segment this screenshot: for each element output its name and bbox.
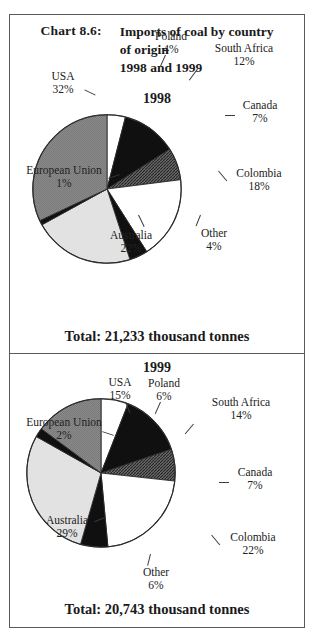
slice-label-other-1999: Other 6% xyxy=(130,566,182,593)
slice-pct-colombia-1999: 22% xyxy=(220,544,286,557)
slice-label-south-africa-1999: South Africa 14% xyxy=(193,396,289,423)
slice-name-colombia-1998: Colombia xyxy=(236,167,281,179)
slice-label-south-africa-1998: South Africa 12% xyxy=(196,42,292,69)
slice-pct-usa-1999: 15% xyxy=(94,389,146,402)
leader-line-southafrica-1999 xyxy=(185,424,194,435)
slice-name-poland-1999: Poland xyxy=(148,377,180,389)
slice-name-australia-1999: Australia xyxy=(46,514,88,526)
slice-label-european-union-1999: European Union 2% xyxy=(8,416,120,443)
leader-line-other-1999 xyxy=(147,554,151,566)
slice-pct-european-union-1999: 2% xyxy=(8,429,120,442)
leader-line-southafrica-1998 xyxy=(189,69,198,81)
slice-name-european-union-1998: European Union xyxy=(26,164,102,176)
slice-pct-south-africa-1999: 14% xyxy=(193,409,289,422)
total-label-1999: Total: 20,743 thousand tonnes xyxy=(10,601,304,618)
year-heading-1999: 1999 xyxy=(10,360,304,376)
slice-name-other-1998: Other xyxy=(201,227,227,239)
slice-label-canada-1998: Canada 7% xyxy=(229,99,291,126)
leader-line-colombia-1999 xyxy=(211,535,220,546)
slice-label-australia-1998: Australia 22% xyxy=(94,229,168,256)
slice-label-colombia-1998: Colombia 18% xyxy=(226,167,292,194)
slice-name-usa-1999: USA xyxy=(108,376,131,388)
chart-frame: Chart 8.6: Imports of coal by country of… xyxy=(9,14,305,628)
slice-label-australia-1999: Australia 29% xyxy=(30,514,104,541)
slice-name-colombia-1999: Colombia xyxy=(230,531,275,543)
slice-label-canada-1999: Canada 7% xyxy=(224,466,286,493)
slice-pct-european-union-1998: 1% xyxy=(8,177,120,190)
slice-name-other-1999: Other xyxy=(143,566,169,578)
slice-pct-colombia-1998: 18% xyxy=(226,180,292,193)
slice-name-european-union-1999: European Union xyxy=(26,416,102,428)
slice-name-poland-1998: Poland xyxy=(155,30,187,42)
pie-slice-colombia xyxy=(101,473,175,547)
slice-pct-south-africa-1998: 12% xyxy=(196,55,292,68)
slice-name-canada-1999: Canada xyxy=(238,466,272,478)
slice-pct-other-1998: 4% xyxy=(188,240,240,253)
leader-line-other-1998 xyxy=(196,215,201,227)
slice-label-other-1998: Other 4% xyxy=(188,227,240,254)
slice-pct-australia-1998: 22% xyxy=(94,242,168,255)
slice-label-poland-1998: Poland 4% xyxy=(141,30,201,57)
slice-pct-canada-1998: 7% xyxy=(229,112,291,125)
slice-name-south-africa-1999: South Africa xyxy=(212,396,270,408)
slice-pct-australia-1999: 29% xyxy=(30,527,104,540)
slice-label-colombia-1999: Colombia 22% xyxy=(220,531,286,558)
total-label-1998: Total: 21,233 thousand tonnes xyxy=(10,328,304,345)
slice-pct-usa-1998: 32% xyxy=(37,83,89,96)
slice-label-usa-1999: USA 15% xyxy=(94,376,146,403)
slice-name-australia-1998: Australia xyxy=(110,229,152,241)
slice-name-canada-1998: Canada xyxy=(243,99,277,111)
pie-panel-1999: 1999 xyxy=(10,354,304,627)
slice-pct-poland-1998: 4% xyxy=(141,43,201,56)
pie-panel-1998: 1998 xyxy=(10,15,304,353)
slice-label-european-union-1998: European Union 1% xyxy=(8,164,120,191)
slice-pct-canada-1999: 7% xyxy=(224,479,286,492)
slice-label-usa-1998: USA 32% xyxy=(37,70,89,97)
slice-name-south-africa-1998: South Africa xyxy=(215,42,273,54)
slice-pct-other-1999: 6% xyxy=(130,579,182,592)
slice-name-usa-1998: USA xyxy=(51,70,74,82)
